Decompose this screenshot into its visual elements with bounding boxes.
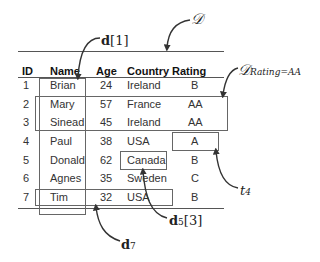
cell-label: d5[3] — [169, 210, 202, 229]
row-label: d7 — [121, 234, 136, 253]
tuple-label: t4 — [240, 180, 251, 199]
column-label: d[1] — [101, 30, 129, 49]
subset-label: 𝒟Rating=AA — [238, 60, 301, 79]
dataset-label: 𝒟 — [191, 10, 203, 28]
annotation-arrows — [0, 0, 320, 262]
